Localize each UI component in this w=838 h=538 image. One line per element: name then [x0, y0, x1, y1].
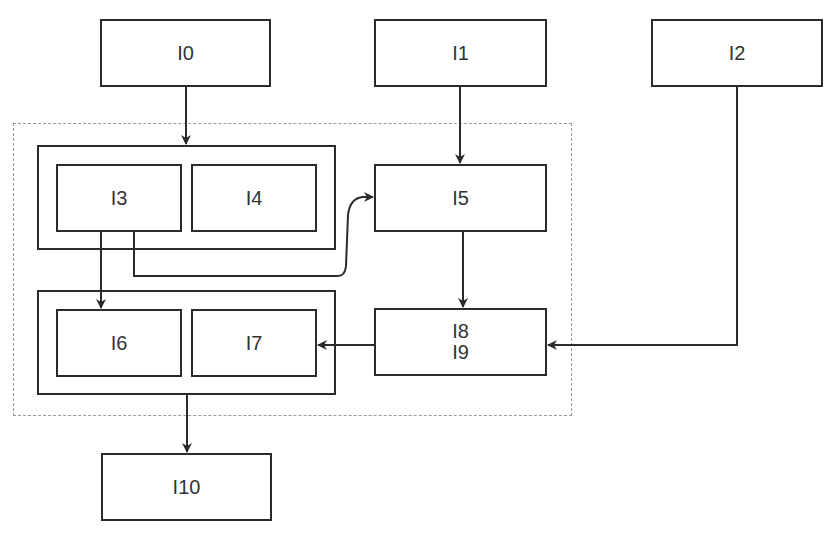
edge-i2-i8 — [548, 87, 737, 345]
node-i3[interactable]: I3 — [56, 164, 182, 232]
node-label: I5 — [452, 188, 469, 209]
node-label: I1 — [452, 43, 469, 64]
node-label: I10 — [173, 477, 201, 498]
node-i0[interactable]: I0 — [100, 19, 271, 87]
node-label: I6 — [111, 333, 128, 354]
node-i5[interactable]: I5 — [374, 164, 547, 232]
node-i2[interactable]: I2 — [651, 19, 823, 87]
node-label: I0 — [177, 43, 194, 64]
node-i10[interactable]: I10 — [101, 453, 272, 521]
node-label: I4 — [246, 188, 263, 209]
node-label-i8: I8 — [452, 321, 469, 342]
node-label-i9: I9 — [452, 342, 469, 363]
node-i6[interactable]: I6 — [56, 309, 182, 377]
node-label: I7 — [246, 333, 263, 354]
node-i1[interactable]: I1 — [374, 19, 547, 87]
node-i7[interactable]: I7 — [191, 309, 317, 377]
diagram-canvas: I0 I1 I2 I3 I4 I5 I6 I7 I8 I9 I10 — [0, 0, 838, 538]
node-i4[interactable]: I4 — [191, 164, 317, 232]
node-i8-i9[interactable]: I8 I9 — [374, 308, 547, 376]
node-label: I3 — [111, 188, 128, 209]
node-label: I2 — [729, 43, 746, 64]
